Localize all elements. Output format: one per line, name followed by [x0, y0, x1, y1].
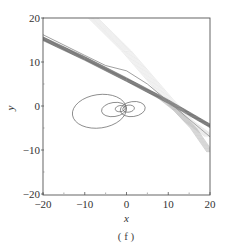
x-tick-label: 0 — [124, 198, 130, 210]
y-tick-label: 20 — [29, 12, 41, 24]
plot-frame — [43, 18, 210, 195]
plot-area — [43, 18, 215, 152]
trajectory-hatched — [157, 97, 207, 152]
x-axis-label: x — [123, 212, 129, 224]
x-tick-label: −10 — [76, 198, 94, 210]
figure-caption: ( f ) — [0, 230, 226, 242]
y-tick-label: 10 — [29, 56, 41, 68]
x-tick-label: 10 — [163, 198, 175, 210]
trajectory-hatched — [158, 97, 208, 152]
y-axis-label: y — [4, 105, 16, 111]
butterfly-loop — [119, 100, 146, 118]
butterfly-loop — [101, 101, 128, 118]
butterfly-loop — [122, 104, 135, 113]
x-tick-label: 20 — [205, 198, 217, 210]
y-tick-label: −10 — [23, 144, 41, 156]
butterfly-loop — [70, 91, 128, 132]
y-tick-label: −20 — [23, 188, 41, 200]
y-tick-label: 0 — [35, 100, 41, 112]
phase-plot: −20−1001020−20−1001020xy — [0, 0, 226, 250]
